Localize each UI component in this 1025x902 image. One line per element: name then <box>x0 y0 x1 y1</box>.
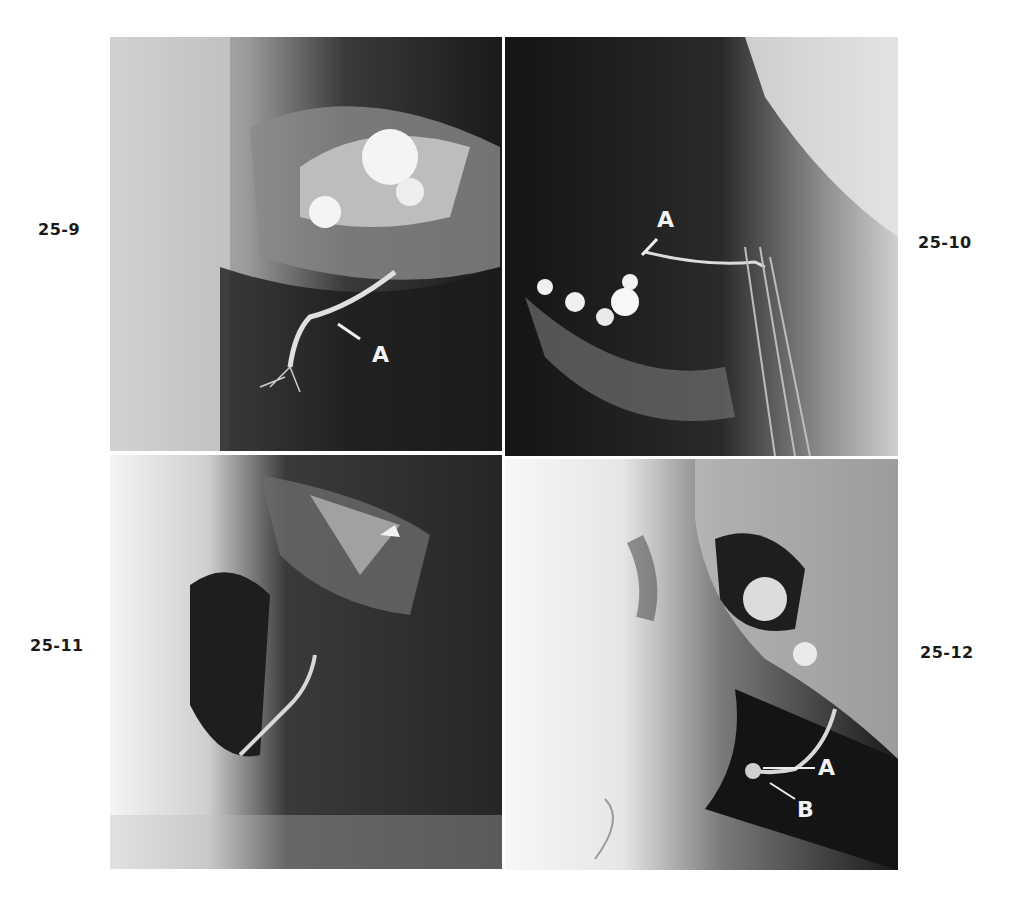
radiograph-panel-25-12: A B <box>505 459 898 870</box>
annotation-a: A <box>818 755 835 780</box>
annotation-b: B <box>797 797 814 822</box>
radiograph-panel-25-11 <box>110 455 502 869</box>
figure-label-25-12: 25-12 <box>920 643 974 662</box>
annotation-a: A <box>657 207 674 232</box>
annotation-a: A <box>372 342 389 367</box>
figure-label-25-9: 25-9 <box>38 220 80 239</box>
figure-label-25-11: 25-11 <box>30 636 84 655</box>
figure-label-25-10: 25-10 <box>918 233 972 252</box>
radiograph-panel-25-9: A <box>110 37 502 451</box>
radiograph-panel-25-10: A <box>505 37 898 456</box>
